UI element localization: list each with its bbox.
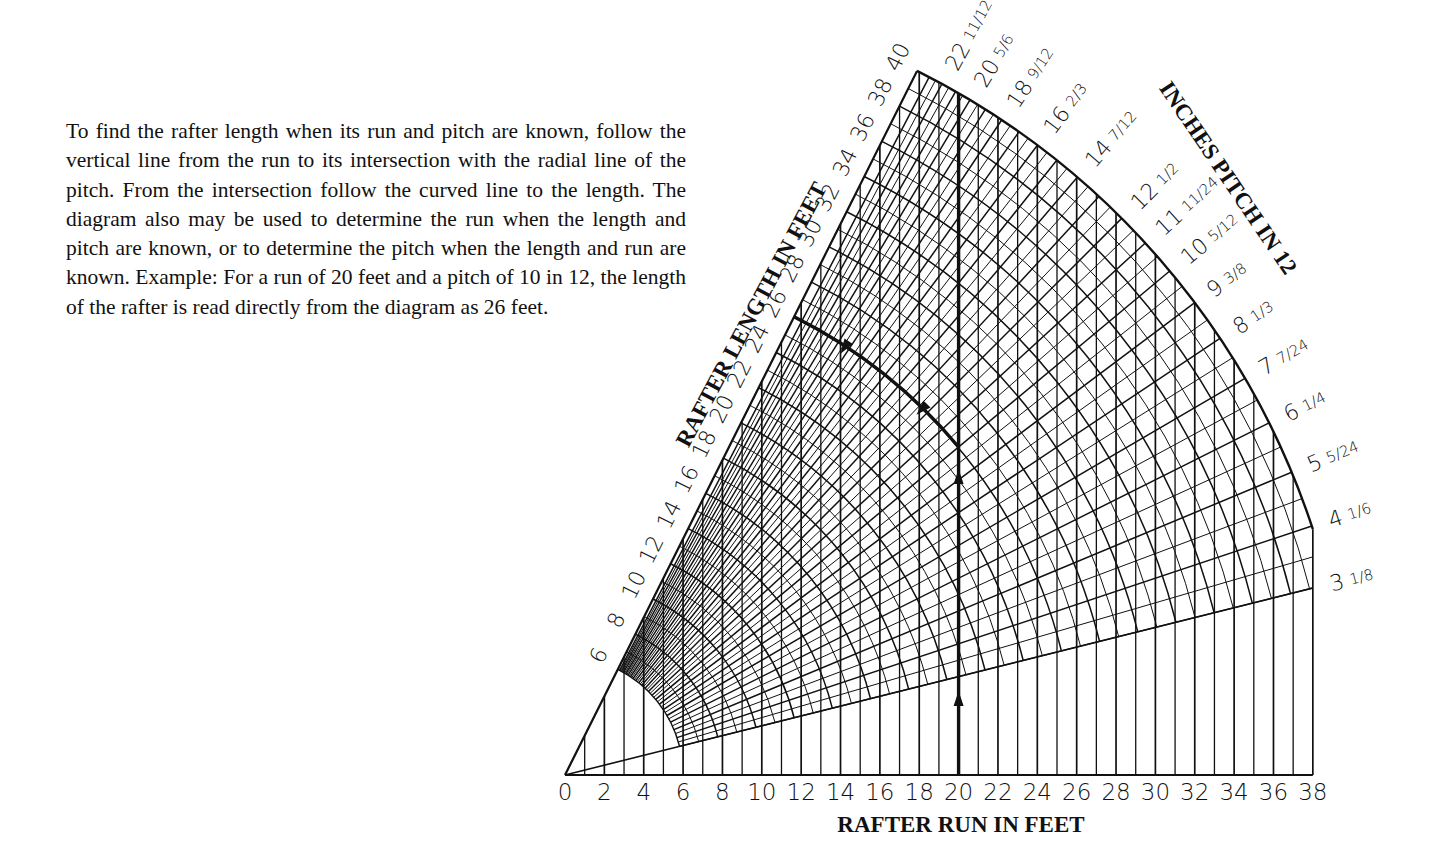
pitch-label: 147/12: [1080, 105, 1143, 173]
length-tick-label: 8: [602, 608, 631, 632]
pitch-inches: 3: [1327, 569, 1347, 597]
pitch-fraction: 1/3: [1247, 297, 1277, 325]
pitch-radial: [663, 338, 1220, 709]
x-tick-label: 18: [905, 779, 934, 805]
pitch-inches: 16: [1038, 101, 1075, 138]
pitch-fraction: 2/3: [1062, 80, 1091, 110]
pitch-radial: [672, 447, 1280, 726]
x-tick-label: 2: [597, 779, 612, 805]
pitch-label: 41/6: [1325, 495, 1375, 533]
x-tick-label: 4: [636, 779, 651, 805]
x-tick-label: 20: [944, 779, 973, 805]
pitch-fraction: 1/6: [1345, 499, 1374, 524]
pitch-fraction: 5/6: [990, 31, 1018, 61]
pitch-radial: [624, 92, 956, 673]
pitch-radial: [648, 218, 1121, 691]
pitch-inches: 18: [1002, 75, 1038, 112]
pitch-fraction: 5/24: [1323, 437, 1361, 467]
rafter-length-diagram: 0246810121416182022242628303234363868101…: [0, 0, 1432, 851]
pitch-fraction: 1/8: [1347, 565, 1375, 588]
pitch-radial: [627, 105, 978, 675]
pitch-label: 162/3: [1038, 77, 1093, 139]
length-tick-label: 6: [584, 644, 613, 668]
pitch-inches: 22: [940, 38, 975, 75]
diagram-grid: [565, 71, 1313, 775]
pitch-label: 189/12: [1002, 42, 1060, 112]
example-path-arc: [794, 317, 958, 447]
pitch-inches: 5: [1303, 449, 1326, 477]
pitch-label: 61/4: [1280, 385, 1331, 427]
x-tick-label: 10: [747, 779, 776, 805]
x-tick-label: 8: [715, 779, 730, 805]
pitch-radial: [654, 257, 1158, 698]
x-tick-label: 22: [983, 779, 1012, 805]
length-tick-label: 36: [845, 109, 880, 145]
pitch-inches: 4: [1325, 505, 1346, 533]
pitch-label: 77/24: [1254, 332, 1313, 381]
arrow-up-icon: [954, 691, 964, 706]
x-tick-label: 34: [1219, 779, 1248, 805]
x-tick-label: 36: [1259, 779, 1288, 805]
x-tick-label: 30: [1141, 779, 1170, 805]
pitch-label: 81/3: [1228, 294, 1279, 339]
x-tick-label: 12: [787, 779, 816, 805]
pitch-label: 121/2: [1126, 156, 1185, 215]
pitch-radial: [677, 526, 1312, 738]
pitch-inches: 12: [1126, 178, 1163, 215]
x-tick-label: 32: [1180, 779, 1209, 805]
x-tick-label: 24: [1023, 779, 1052, 805]
pitch-fraction: 1/4: [1299, 388, 1329, 415]
pitch-radial: [674, 472, 1292, 729]
x-axis-title: RAFTER RUN IN FEET: [837, 812, 1084, 837]
pitch-inches: 6: [1280, 398, 1304, 427]
pitch-inches: 20: [969, 55, 1005, 92]
x-tick-label: 38: [1298, 779, 1327, 805]
x-tick-label: 16: [865, 779, 894, 805]
length-tick-label: 34: [828, 144, 863, 180]
length-tick-label: 38: [863, 74, 898, 110]
length-tick-label: 16: [669, 461, 704, 497]
length-tick-label: 10: [616, 567, 651, 603]
pitch-radial: [676, 499, 1303, 734]
pitch-inches: 14: [1080, 135, 1117, 173]
length-tick-label: 12: [634, 532, 669, 568]
x-tick-label: 26: [1062, 779, 1091, 805]
pitch-inches: 10: [1176, 233, 1214, 270]
pitch-radial: [626, 100, 970, 674]
pitch-fraction: 1/2: [1153, 159, 1183, 189]
x-tick-label: 14: [826, 779, 855, 805]
pitch-radial: [671, 423, 1269, 722]
x-tick-label: 6: [676, 779, 691, 805]
x-tick-label: 28: [1101, 779, 1130, 805]
pitch-fraction: 9/12: [1024, 45, 1058, 83]
pitch-label: 31/8: [1327, 561, 1376, 596]
x-tick-label: 0: [558, 779, 573, 805]
length-tick-label: 40: [880, 39, 915, 75]
pitch-fraction: 5/12: [1204, 210, 1241, 245]
pitch-label: 105/12: [1176, 207, 1244, 270]
pitch-fraction: 7/24: [1274, 335, 1312, 368]
length-tick-label: 14: [652, 496, 687, 532]
pitch-label: 55/24: [1303, 434, 1362, 478]
pitch-fraction: 3/8: [1220, 259, 1250, 288]
pitch-inches: 11: [1150, 203, 1188, 240]
pitch-label: 93/8: [1202, 256, 1252, 302]
pitch-fraction: 11/12: [960, 0, 997, 43]
pitch-fraction: 7/12: [1105, 107, 1141, 144]
